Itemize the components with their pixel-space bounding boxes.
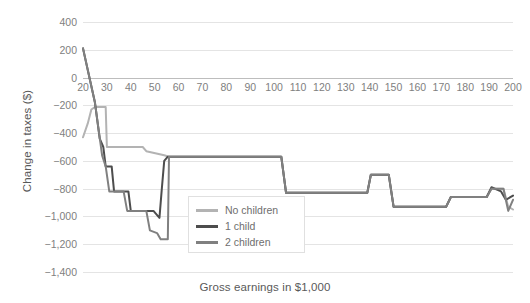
y-tick-label: −400 [33,128,77,139]
y-tick-label: −800 [33,184,77,195]
y-tick-label: −1,200 [33,239,77,250]
legend-item-2-children[interactable]: 2 children [196,234,297,250]
series-line [83,107,513,210]
x-axis-title: Gross earnings in $1,000 [0,281,530,293]
y-tick-label: −600 [33,156,77,167]
x-tick-label: 200 [498,82,528,93]
legend-label-no-children: No children [225,204,278,216]
legend-label-2-children: 2 children [225,236,271,248]
chart-container: Change in taxes ($) 4002000−200−400−600−… [0,0,530,303]
chart-legend: No children 1 child 2 children [188,196,305,253]
legend-swatch-1-child [196,225,218,228]
y-tick-label: −1,000 [33,211,77,222]
legend-item-no-children[interactable]: No children [196,202,297,218]
y-tick-label: −1,400 [33,267,77,278]
legend-swatch-2-children [196,241,218,244]
legend-swatch-no-children [196,209,218,212]
gridline [83,272,513,273]
legend-item-1-child[interactable]: 1 child [196,218,297,234]
y-tick-label: 200 [33,45,77,56]
y-tick-label: 400 [33,17,77,28]
legend-label-1-child: 1 child [225,220,255,232]
y-tick-label: −200 [33,100,77,111]
